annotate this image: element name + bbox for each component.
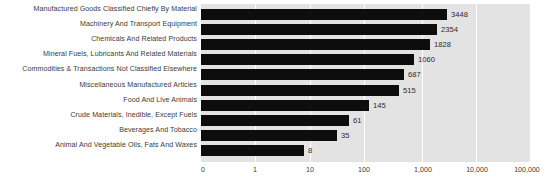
category-axis: Manufactured Goods Classified Chiefly By… — [0, 4, 197, 162]
category-label: Machinery And Transport Equipment — [0, 19, 197, 30]
category-label: Commodities & Transactions Not Classifie… — [0, 64, 197, 75]
bar — [201, 130, 337, 141]
bar — [201, 69, 404, 80]
plot-area: 3448 2354 1828 1060 687 515 145 61 35 8 — [201, 4, 530, 162]
bar-value-label: 8 — [308, 145, 312, 156]
value-axis: 0 1 10 100 1,000 10,000 100,000 — [0, 164, 548, 178]
gridline-10000 — [476, 4, 477, 162]
bar-value-label: 1060 — [418, 54, 435, 65]
bar — [201, 9, 447, 20]
category-label: Miscellaneous Manufactured Articles — [0, 80, 197, 91]
x-tick-label: 100,000 — [514, 164, 540, 176]
bar-value-label: 35 — [341, 130, 349, 141]
bar-value-label: 687 — [408, 69, 421, 80]
category-label: Animal And Vegetable Oils, Fats And Waxe… — [0, 140, 197, 151]
bar-value-label: 3448 — [451, 9, 468, 20]
x-tick-label: 100 — [358, 164, 370, 176]
category-label: Beverages And Tobacco — [0, 125, 197, 136]
bar-value-label: 515 — [403, 85, 416, 96]
x-tick-label: 1,000 — [414, 164, 432, 176]
bar — [201, 100, 369, 111]
bar-value-label: 145 — [373, 100, 386, 111]
x-tick-label: 10 — [306, 164, 314, 176]
bar-value-label: 61 — [353, 115, 361, 126]
x-tick-label: 1 — [253, 164, 257, 176]
bar-value-label: 2354 — [441, 24, 458, 35]
category-label: Chemicals And Related Products — [0, 34, 197, 45]
bar — [201, 24, 437, 35]
category-label: Food And Live Animals — [0, 95, 197, 106]
bar — [201, 115, 349, 126]
category-label: Crude Materials, Inedible, Except Fuels — [0, 110, 197, 121]
bar — [201, 145, 304, 156]
x-tick-label: 0 — [201, 164, 205, 176]
bar — [201, 54, 414, 65]
bar-chart: Manufactured Goods Classified Chiefly By… — [0, 0, 548, 184]
x-tick-label: 10,000 — [466, 164, 488, 176]
bar-value-label: 1828 — [434, 39, 451, 50]
category-label: Mineral Fuels, Lubricants And Related Ma… — [0, 49, 197, 60]
bar — [201, 39, 430, 50]
category-label: Manufactured Goods Classified Chiefly By… — [0, 4, 197, 15]
bar — [201, 85, 399, 96]
